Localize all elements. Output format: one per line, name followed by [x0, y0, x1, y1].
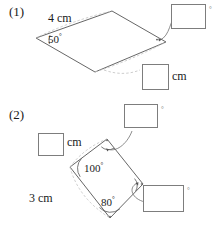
answer-box-1-angle[interactable]: [171, 4, 206, 29]
answer-box-2-angle-top[interactable]: [124, 104, 158, 128]
answer-box-1-length[interactable]: [142, 64, 169, 90]
label-angle-100: 100°: [84, 162, 103, 174]
label-angle-80: 80°: [101, 196, 115, 208]
degree-unit-icon-1: °: [209, 6, 212, 13]
problem-1-number: (1): [9, 5, 24, 18]
degree-unit-icon-3: °: [187, 187, 190, 194]
unit-label-cm-1: cm: [172, 70, 187, 82]
problem-2-number: (2): [9, 108, 24, 121]
label-side-4cm: 4 cm: [48, 12, 72, 24]
vertex-mark-top: [106, 140, 108, 142]
label-side-3cm: 3 cm: [29, 192, 53, 204]
leader-curve-top-angle: [109, 131, 133, 150]
vertex-mark-right: [156, 39, 158, 41]
label-angle-50: 50°: [48, 33, 62, 45]
vertex-mark-bottom: [109, 216, 111, 218]
worksheet-canvas: (1) 4 cm 50° ° cm (2) cm 100° 3 cm 80° °…: [0, 0, 222, 231]
answer-box-2-length[interactable]: [38, 133, 64, 156]
degree-unit-icon-2: °: [161, 106, 164, 113]
degree-icon: °: [101, 161, 104, 169]
leader-curve-length: [104, 70, 140, 73]
degree-icon: °: [112, 195, 115, 203]
unit-label-cm-2: cm: [67, 136, 82, 148]
answer-box-2-angle-right[interactable]: [143, 185, 184, 212]
degree-icon: °: [59, 32, 62, 40]
